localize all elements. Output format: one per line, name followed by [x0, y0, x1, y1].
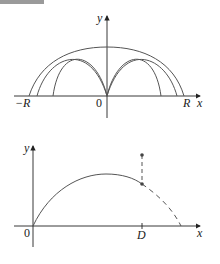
figure-canvas: y x −R 0 R y x 0 D	[0, 0, 220, 264]
d-label: D	[136, 228, 146, 242]
arch-wide-right	[107, 59, 177, 96]
top-zero-label: 0	[96, 96, 102, 110]
r-label: R	[182, 96, 191, 110]
d-top-point	[140, 153, 144, 157]
bottom-x-label: x	[196, 226, 203, 240]
top-x-label: x	[196, 96, 203, 110]
top-y-label: y	[96, 11, 103, 25]
arch-wide-left	[37, 59, 107, 96]
trajectory-solid	[33, 174, 142, 226]
top-diagram: y x −R 0 R	[14, 11, 203, 118]
bottom-diagram: y x 0 D	[14, 141, 203, 247]
neg-r-label: −R	[15, 96, 31, 110]
trajectory-dashed	[142, 184, 181, 226]
bottom-y-label: y	[23, 141, 30, 155]
envelope-curve	[29, 47, 184, 96]
bottom-zero-label: 0	[24, 226, 30, 240]
d-curve-point	[140, 182, 144, 186]
